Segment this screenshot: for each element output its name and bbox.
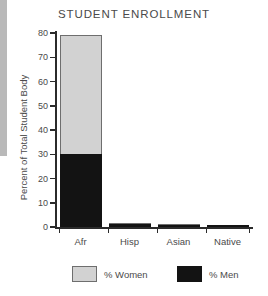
bar-segment-men xyxy=(207,225,249,227)
bar-segment-women xyxy=(60,35,102,154)
y-axis-tick-label: 20 xyxy=(2,174,48,184)
y-axis-tick-label: 60 xyxy=(2,77,48,87)
legend-label: % Women xyxy=(104,269,148,280)
legend-item-women[interactable]: % Women xyxy=(72,264,148,284)
bar-segment-men xyxy=(109,224,151,227)
chart-figure: STUDENT ENROLLMENT Percent of Total Stud… xyxy=(0,0,268,296)
y-axis-tick-label: 70 xyxy=(2,52,48,62)
x-axis-tick xyxy=(59,227,61,233)
legend-swatch-men xyxy=(177,266,202,282)
bar-segment-men xyxy=(158,225,200,227)
x-axis-tick xyxy=(108,227,110,233)
plot-area xyxy=(56,33,252,227)
bar-afr xyxy=(60,35,102,227)
bar-segment-men xyxy=(60,154,102,227)
x-axis-tick-label: Native xyxy=(214,236,241,247)
legend-label: % Men xyxy=(209,269,239,280)
y-axis-tick-label: 0 xyxy=(2,222,48,232)
x-axis-tick-label: Afr xyxy=(74,236,86,247)
legend-item-men[interactable]: % Men xyxy=(177,264,239,284)
bar-asian xyxy=(158,224,200,227)
y-axis-tick-labels: 01020304050607080 xyxy=(0,0,48,296)
x-axis-tick xyxy=(206,227,208,233)
y-axis-tick-label: 10 xyxy=(2,198,48,208)
y-axis-tick-label: 40 xyxy=(2,125,48,135)
bar-native xyxy=(207,225,249,227)
chart-legend: % Women% Men xyxy=(0,264,268,286)
legend-swatch-women xyxy=(72,266,97,282)
x-axis-tick xyxy=(249,227,251,233)
y-axis-tick-label: 80 xyxy=(2,28,48,38)
x-axis-tick xyxy=(157,227,159,233)
x-axis-tick-label: Asian xyxy=(167,236,191,247)
y-axis-tick-label: 50 xyxy=(2,101,48,111)
x-axis-line xyxy=(55,227,253,229)
y-axis-tick-label: 30 xyxy=(2,149,48,159)
x-axis-tick-label: Hisp xyxy=(120,236,139,247)
bar-hisp xyxy=(109,223,151,227)
